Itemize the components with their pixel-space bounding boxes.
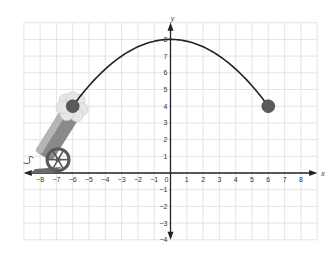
y-axis-arrow-down-icon [168,232,174,240]
x-tick-label: 4 [234,176,238,183]
launch-point-ball [66,100,79,113]
x-axis-arrow-right-icon [309,170,317,176]
x-tick-label: −8 [36,176,44,183]
x-tick-label: 1 [185,176,189,183]
x-tick-label: 5 [250,176,254,183]
y-tick-label: 4 [164,103,168,110]
fuse-icon [24,156,34,163]
y-tick-label: −4 [160,236,168,243]
x-tick-label: −4 [101,176,109,183]
projectile-parabola-chart: −8−7−6−5−4−3−2−1012345678−4−3−2−11234567… [0,0,336,258]
y-tick-label: −2 [160,203,168,210]
x-tick-label: 7 [283,176,287,183]
x-tick-label: −3 [118,176,126,183]
y-tick-label: −3 [160,220,168,227]
y-tick-label: 7 [164,53,168,60]
x-tick-label: 8 [299,176,303,183]
y-tick-label: 1 [164,153,168,160]
x-tick-label: −7 [52,176,60,183]
x-tick-label: −6 [69,176,77,183]
x-axis-label: x [320,169,325,178]
y-tick-label: 5 [164,86,168,93]
x-tick-label: −1 [150,176,158,183]
y-tick-label: 2 [164,136,168,143]
x-tick-label: 3 [217,176,221,183]
x-tick-label: 0 [165,176,169,183]
y-axis-arrow-up-icon [168,23,174,31]
y-axis-label: y [170,14,175,23]
wheel-hub [56,157,61,162]
x-tick-label: −2 [134,176,142,183]
landing-point-ball [262,100,275,113]
x-tick-label: 6 [266,176,270,183]
y-tick-label: 6 [164,69,168,76]
y-tick-label: −1 [160,186,168,193]
y-tick-label: 3 [164,119,168,126]
x-tick-label: 2 [201,176,205,183]
x-tick-label: −5 [85,176,93,183]
